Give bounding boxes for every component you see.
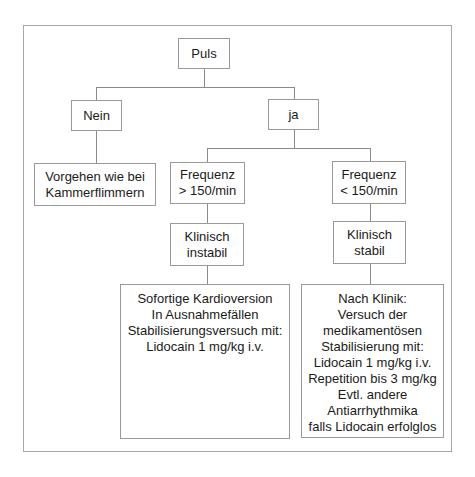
node-line: Nach Klinik: (338, 291, 407, 307)
node-line: Repetition bis 3 mg/kg (308, 371, 437, 387)
node-line: stabil (354, 243, 384, 259)
node-line: Versuch der (338, 307, 407, 323)
node-label: ja (288, 107, 298, 123)
connector (370, 263, 371, 284)
node-ja: ja (268, 99, 319, 130)
node-frequenz-hoch: Frequenz > 150/min (170, 162, 245, 204)
node-line: falls Lidocain erfolglos (309, 419, 437, 435)
connector (207, 265, 208, 284)
connector (370, 203, 371, 221)
node-line: Lidocain 1 mg/kg i.v. (314, 355, 432, 371)
node-line: In Ausnahmefällen (152, 307, 259, 323)
node-label: Nein (83, 108, 110, 124)
node-line: Frequenz (342, 167, 397, 183)
node-line: Klinisch (347, 227, 392, 243)
node-vorgehen-kammerflimmern: Vorgehen wie bei Kammerflimmern (34, 163, 156, 206)
connector (96, 87, 295, 88)
connector (370, 148, 371, 161)
node-line: Antiarrhythmika (327, 403, 417, 419)
node-line: Evtl. andere (338, 387, 407, 403)
node-line: Klinisch (185, 229, 230, 245)
node-sofortige-kardioversion: Sofortige Kardioversion In Ausnahmefälle… (120, 284, 290, 439)
node-line: instabil (187, 245, 227, 261)
connector (294, 129, 295, 148)
connector (204, 68, 205, 87)
node-line: < 150/min (340, 183, 397, 199)
connector (96, 87, 97, 100)
node-line: medikamentösen (323, 323, 422, 339)
node-label: Puls (191, 46, 216, 62)
node-klinisch-stabil: Klinisch stabil (333, 221, 406, 264)
node-line: Stabilisierungsversuch mit: (128, 323, 283, 339)
node-nein: Nein (71, 100, 122, 131)
node-line: Kammerflimmern (46, 185, 145, 201)
connector (294, 87, 295, 99)
node-line: Vorgehen wie bei (45, 169, 145, 185)
node-klinisch-instabil: Klinisch instabil (170, 223, 244, 266)
node-line: Lidocain 1 mg/kg i.v. (146, 339, 264, 355)
connector (207, 203, 208, 223)
connector (96, 130, 97, 163)
node-line: Stabilisierung mit: (321, 339, 424, 355)
node-puls: Puls (178, 38, 230, 69)
node-frequenz-niedrig: Frequenz < 150/min (332, 161, 406, 204)
connector (207, 148, 208, 162)
node-line: Frequenz (180, 167, 235, 183)
node-line: > 150/min (179, 183, 236, 199)
node-nach-klinik: Nach Klinik: Versuch der medikamentösen … (301, 284, 444, 438)
node-line: Sofortige Kardioversion (137, 291, 272, 307)
connector (207, 148, 371, 149)
